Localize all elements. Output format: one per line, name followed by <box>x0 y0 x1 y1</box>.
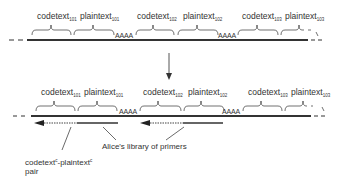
top-label-plaintext-103: plaintext103 <box>285 11 324 25</box>
down-arrow-icon <box>166 53 172 80</box>
bottom-label-plaintext-101: plaintext101 <box>84 87 123 101</box>
bottom-label-plaintext-103: plaintext103 <box>291 87 330 101</box>
top-spacer-2: AAAA <box>218 32 236 40</box>
bottom-spacer-1: AAAA <box>119 108 137 116</box>
top-label-codetext-103: codetext103 <box>242 11 282 25</box>
primer-arrow-2 <box>140 120 223 126</box>
top-strand <box>9 25 322 40</box>
primers-annotation: Alice's library of primers <box>102 142 187 152</box>
top-label-plaintext-102: plaintext102 <box>183 11 222 25</box>
bottom-label-codetext-101: codetext101 <box>41 87 81 101</box>
top-label-codetext-101: codetext101 <box>37 11 77 25</box>
top-spacer-1: AAAA <box>115 32 133 40</box>
bottom-label-codetext-103: codetext103 <box>248 87 288 101</box>
primer-arrow-1 <box>34 120 118 126</box>
top-label-codetext-102: codetext102 <box>137 11 177 25</box>
bottom-spacer-2: AAAA <box>222 108 240 116</box>
pair-annotation-line2: pair <box>25 167 38 177</box>
top-label-plaintext-101: plaintext101 <box>80 11 119 25</box>
bottom-strand <box>13 101 325 116</box>
bottom-label-plaintext-102: plaintext102 <box>188 87 227 101</box>
bottom-label-codetext-102: codetext102 <box>143 87 183 101</box>
